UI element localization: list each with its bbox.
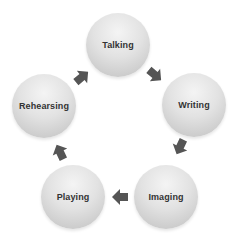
node-label: Imaging [148, 192, 183, 202]
arrow-writing-to-imaging-icon [171, 138, 189, 156]
node-label: Writing [178, 100, 210, 110]
arrow-imaging-to-playing-icon [111, 188, 129, 206]
node-imaging: Imaging [134, 165, 198, 229]
arrow-rehearsing-to-talking-icon [73, 68, 91, 86]
node-label: Rehearsing [19, 101, 69, 111]
node-rehearsing: Rehearsing [12, 74, 76, 138]
node-talking: Talking [86, 13, 150, 77]
node-label: Playing [57, 192, 90, 202]
arrow-playing-to-rehearsing-icon [51, 143, 69, 161]
node-playing: Playing [41, 165, 105, 229]
arrow-talking-to-writing-icon [146, 66, 164, 84]
node-writing: Writing [162, 73, 226, 137]
cycle-diagram: Talking Writing Imaging Playing Rehearsi… [0, 0, 235, 242]
node-label: Talking [102, 40, 134, 50]
